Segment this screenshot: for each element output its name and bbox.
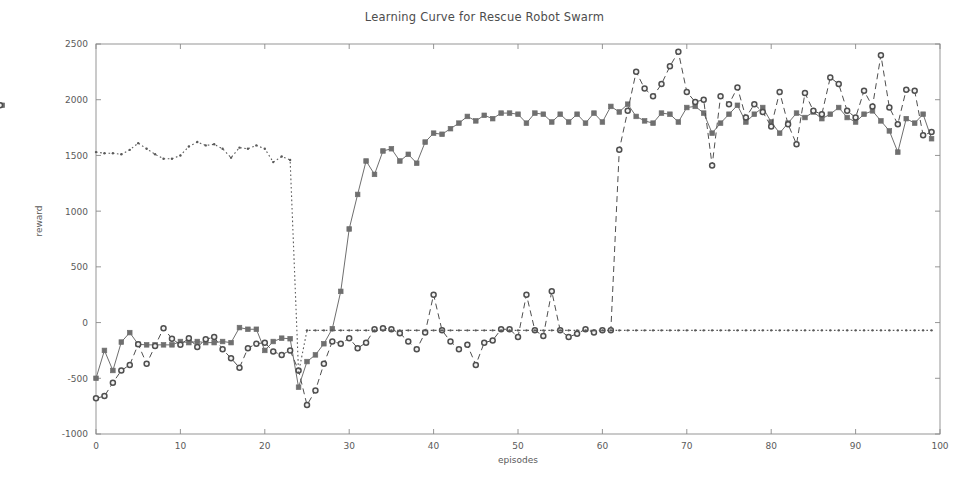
data-point	[770, 329, 772, 331]
data-point	[440, 132, 445, 137]
data-point	[778, 329, 780, 331]
data-point	[702, 329, 704, 331]
data-point	[921, 133, 926, 138]
data-point	[203, 337, 208, 342]
y-tick-label: 0	[82, 318, 88, 328]
data-point	[381, 149, 386, 154]
data-point	[195, 339, 200, 344]
data-point	[188, 145, 190, 147]
data-point	[745, 329, 747, 331]
data-point	[566, 335, 571, 340]
data-point	[804, 329, 806, 331]
data-point	[913, 329, 915, 331]
data-point	[457, 121, 462, 126]
data-point	[246, 327, 251, 332]
data-point	[296, 385, 301, 390]
data-point	[196, 141, 198, 143]
data-point	[186, 336, 191, 341]
data-point	[600, 120, 605, 125]
data-point	[828, 75, 833, 80]
x-tick-label: 20	[259, 441, 271, 451]
data-point	[305, 359, 310, 364]
data-point	[245, 346, 250, 351]
data-point	[127, 330, 132, 335]
y-tick-label: 1000	[65, 207, 88, 217]
data-point	[129, 149, 131, 151]
data-point	[517, 329, 519, 331]
data-point	[154, 153, 156, 155]
data-point	[313, 353, 318, 358]
y-tick-label: 500	[71, 262, 88, 272]
x-tick-label: 60	[597, 441, 609, 451]
data-point	[271, 339, 276, 344]
data-point	[153, 343, 158, 348]
data-point	[743, 115, 748, 120]
data-point	[710, 131, 715, 136]
data-point	[499, 111, 504, 116]
series-layer	[0, 49, 934, 407]
data-point	[473, 362, 478, 367]
data-point	[516, 112, 521, 117]
data-point	[330, 339, 335, 344]
data-point	[618, 329, 620, 331]
y-tick-label: -500	[68, 374, 89, 384]
data-point	[416, 329, 418, 331]
y-tick-label: 1500	[65, 151, 88, 161]
data-point	[727, 102, 732, 107]
data-point	[592, 111, 597, 116]
data-point	[930, 329, 932, 331]
data-point	[288, 336, 293, 341]
data-point	[161, 326, 166, 331]
data-point	[212, 340, 217, 345]
data-point	[542, 329, 544, 331]
data-point	[694, 329, 696, 331]
data-point	[821, 329, 823, 331]
data-point	[348, 329, 350, 331]
data-point	[895, 122, 900, 127]
data-point	[549, 289, 554, 294]
data-point	[279, 336, 284, 341]
data-point	[406, 152, 411, 157]
data-point	[718, 121, 723, 126]
x-tick-label: 90	[850, 441, 862, 451]
data-point	[458, 329, 460, 331]
data-point	[921, 112, 926, 117]
data-point	[845, 108, 850, 113]
data-point	[863, 329, 865, 331]
data-point	[829, 329, 831, 331]
y-tick-label: 2500	[65, 39, 88, 49]
data-point	[686, 329, 688, 331]
data-point	[144, 361, 149, 366]
data-point	[474, 119, 479, 124]
data-point	[254, 327, 259, 332]
data-point	[340, 329, 342, 331]
series-line-2	[96, 142, 932, 373]
data-point	[929, 130, 934, 135]
data-point	[264, 148, 266, 150]
chart-figure: Learning Curve for Rescue Robot Swarm -1…	[0, 0, 969, 482]
data-point	[812, 329, 814, 331]
data-point	[727, 112, 732, 117]
data-point	[221, 148, 223, 150]
data-point	[870, 104, 875, 109]
data-point	[888, 329, 890, 331]
data-point	[676, 49, 681, 54]
data-point	[524, 292, 529, 297]
data-point	[575, 331, 580, 336]
data-point	[162, 158, 164, 160]
data-point	[811, 108, 816, 113]
y-tick-label: -1000	[62, 429, 88, 439]
data-point	[677, 329, 679, 331]
tick-label-layer: -1000-5000500100015002000250001020304050…	[62, 39, 949, 451]
data-point	[524, 121, 529, 126]
data-point	[432, 329, 434, 331]
data-point	[836, 82, 841, 87]
data-point	[414, 161, 419, 166]
data-point	[238, 146, 240, 148]
data-point	[323, 329, 325, 331]
data-point	[777, 89, 782, 94]
y-tick-label: 2000	[65, 95, 88, 105]
data-point	[819, 112, 824, 117]
data-point	[297, 372, 299, 374]
data-point	[846, 329, 848, 331]
